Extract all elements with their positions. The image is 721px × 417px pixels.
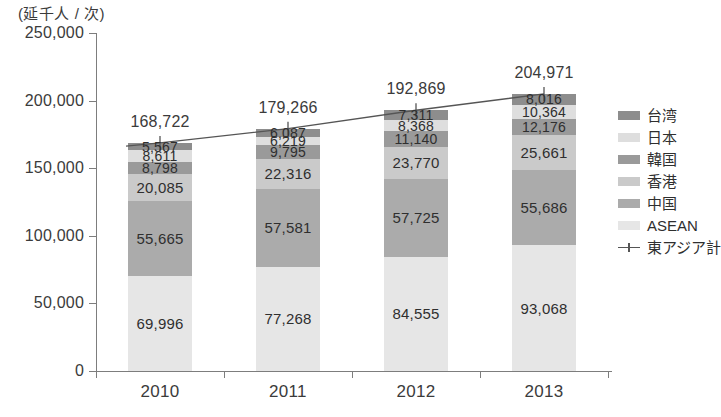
legend-item-東アジア計[interactable]: 東アジア計: [618, 236, 714, 258]
y-axis-tick: [89, 101, 96, 102]
legend-item-中国[interactable]: 中国: [618, 192, 714, 214]
y-axis-tick-label: 150,000: [0, 159, 84, 177]
bar-segment-value: 55,665: [136, 231, 183, 246]
x-axis-tick: [352, 371, 353, 378]
y-axis-unit-caption: (延千人 / 次): [18, 2, 105, 23]
x-axis-tick-label: 2012: [376, 382, 456, 402]
legend-item-台湾[interactable]: 台湾: [618, 104, 714, 126]
bar-segment-value: 8,798: [142, 161, 178, 175]
legend-swatch: [618, 111, 640, 120]
y-axis-line: [96, 33, 97, 372]
bar-total-label: 192,869: [361, 80, 471, 98]
bar-segment-中国: 57,725: [384, 179, 448, 257]
legend-item-香港[interactable]: 香港: [618, 170, 714, 192]
y-axis-tick-label: 0: [0, 362, 84, 380]
bar-segment-value: 9,795: [270, 145, 306, 159]
legend-item-label: 韓国: [647, 152, 677, 167]
legend-swatch: [618, 177, 640, 186]
bar-2011: 6,0876,2199,79522,31657,58177,268: [256, 129, 320, 371]
legend-item-韓国[interactable]: 韓国: [618, 148, 714, 170]
bar-segment-ASEAN: 84,555: [384, 257, 448, 371]
bar-segment-value: 57,581: [264, 220, 311, 235]
y-axis-tick: [89, 371, 96, 372]
legend-item-label: 東アジア計: [647, 240, 721, 255]
bar-total-label: 168,722: [105, 113, 215, 131]
bar-total-label: 179,266: [233, 99, 343, 117]
y-axis-tick-label: 200,000: [0, 92, 84, 110]
legend-item-label: 中国: [647, 196, 677, 211]
legend-item-label: 日本: [647, 130, 677, 145]
x-axis-tick-label: 2013: [504, 382, 584, 402]
x-axis-tick: [224, 371, 225, 378]
legend-item-label: 台湾: [647, 108, 677, 123]
bar-segment-中国: 57,581: [256, 189, 320, 267]
bar-segment-中国: 55,665: [128, 201, 192, 276]
y-axis-tick: [89, 33, 96, 34]
legend-item-ASEAN[interactable]: ASEAN: [618, 214, 714, 236]
bar-segment-韓国: 9,795: [256, 145, 320, 158]
y-axis-tick: [89, 168, 96, 169]
bar-segment-ASEAN: 77,268: [256, 267, 320, 371]
bar-segment-ASEAN: 93,068: [512, 245, 576, 371]
bar-segment-香港: 23,770: [384, 147, 448, 179]
bar-total-label: 204,971: [489, 64, 599, 82]
x-axis-tick-label: 2011: [248, 382, 328, 402]
bar-segment-中国: 55,686: [512, 170, 576, 245]
legend-item-日本[interactable]: 日本: [618, 126, 714, 148]
y-axis-tick-label: 100,000: [0, 227, 84, 245]
trend-line: [160, 94, 544, 143]
legend-line-marker-icon: [618, 243, 640, 252]
legend-swatch: [618, 155, 640, 164]
x-axis-line: [96, 371, 612, 372]
bar-segment-value: 25,661: [520, 145, 567, 160]
bar-2010: 5,5678,6118,79820,08555,66569,996: [128, 143, 192, 371]
bar-segment-香港: 25,661: [512, 135, 576, 170]
y-axis-tick: [89, 303, 96, 304]
bar-segment-value: 57,725: [392, 210, 439, 225]
bar-segment-value: 69,996: [136, 316, 183, 331]
legend-swatch: [618, 199, 640, 208]
x-axis-tick: [480, 371, 481, 378]
y-axis-tick-label: 250,000: [0, 24, 84, 42]
bar-segment-韓国: 8,798: [128, 162, 192, 174]
bar-segment-韓国: 11,140: [384, 131, 448, 146]
x-axis-tick: [608, 371, 609, 378]
legend-item-label: 香港: [647, 174, 677, 189]
y-axis-tick-label: 50,000: [0, 294, 84, 312]
bar-segment-value: 22,316: [264, 166, 311, 181]
bar-segment-日本: 10,364: [512, 105, 576, 119]
legend-swatch: [618, 133, 640, 142]
x-axis-tick-label: 2010: [120, 382, 200, 402]
bar-segment-香港: 20,085: [128, 174, 192, 201]
bar-2012: 7,3118,36811,14023,77057,72584,555: [384, 110, 448, 371]
legend-item-label: ASEAN: [647, 218, 698, 233]
bar-segment-日本: 8,368: [384, 120, 448, 131]
bar-segment-value: 11,140: [395, 132, 438, 146]
bar-segment-value: 23,770: [392, 155, 439, 170]
bar-2013: 8,01610,36412,17625,66155,68693,068: [512, 94, 576, 371]
legend-swatch: [618, 221, 640, 230]
bar-segment-value: 12,176: [522, 120, 566, 134]
bar-segment-value: 55,686: [520, 200, 567, 215]
x-axis-tick: [96, 371, 97, 378]
bar-segment-value: 10,364: [522, 105, 566, 119]
bar-segment-香港: 22,316: [256, 159, 320, 189]
bar-segment-value: 84,555: [392, 306, 439, 321]
y-axis-tick: [89, 236, 96, 237]
bar-segment-value: 77,268: [264, 311, 311, 326]
bar-segment-value: 20,085: [136, 180, 183, 195]
bar-segment-韓国: 12,176: [512, 119, 576, 135]
chart-legend: 台湾日本韓国香港中国ASEAN東アジア計: [618, 104, 714, 258]
bar-segment-value: 93,068: [520, 301, 567, 316]
bar-segment-ASEAN: 69,996: [128, 276, 192, 371]
